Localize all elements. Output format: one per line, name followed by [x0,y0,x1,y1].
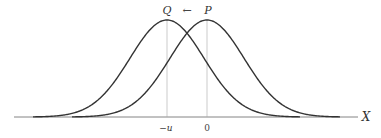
curve-q [33,20,300,117]
diagram-canvas: Q ← P −u 0 X [0,0,381,138]
label-q: Q [162,4,171,17]
tick-zero: 0 [204,123,210,133]
x-axis-label: X [361,110,371,124]
shift-arrow-icon: ← [182,4,191,17]
tick-minus-u: −u [159,123,173,133]
label-p: P [203,4,212,17]
curve-p [72,20,340,117]
